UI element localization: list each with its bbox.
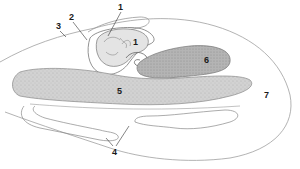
structure-5: [13, 68, 252, 104]
leader-line-4a: [106, 138, 113, 146]
lower-tube-right: [135, 110, 238, 129]
anatomical-diagram: [0, 0, 300, 169]
label-5: 5: [117, 87, 122, 96]
label-7: 7: [264, 91, 269, 100]
leader-line-2: [73, 22, 87, 40]
label-2: 2: [69, 13, 74, 22]
label-1-top: 1: [118, 3, 123, 12]
label-4: 4: [112, 148, 117, 157]
label-3: 3: [56, 22, 61, 31]
label-1-inner: 1: [133, 38, 138, 47]
structure-1: [96, 29, 148, 67]
structure-6: [137, 46, 230, 78]
label-6: 6: [204, 56, 209, 65]
